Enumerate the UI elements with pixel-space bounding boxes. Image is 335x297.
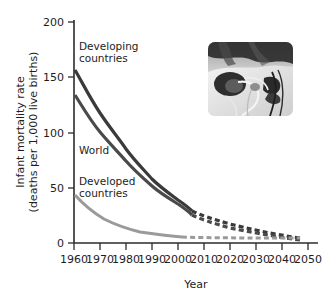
chart-plot-area: 200 150 100 50 0 1960 1970 1980 1990 200… <box>0 0 335 297</box>
x-tick-label-1970: 1970 <box>86 253 114 266</box>
series-label-world-line1: World <box>79 144 109 156</box>
x-tick-label-2050: 2050 <box>294 253 322 266</box>
infant-mortality-chart-figure: 200 150 100 50 0 1960 1970 1980 1990 200… <box>0 0 335 297</box>
y-axis-title-line1: Infant mortality rate <box>14 76 27 188</box>
x-tick-label-2010: 2010 <box>190 253 218 266</box>
series-line-developing-dashed <box>192 211 300 238</box>
x-axis-tick-labels: 1960 1970 1980 1990 2000 2010 2020 2030 … <box>60 253 322 266</box>
x-tick-label-1980: 1980 <box>112 253 140 266</box>
series-label-world: World <box>79 144 109 156</box>
y-axis-ticks <box>68 22 74 243</box>
x-tick-label-1960: 1960 <box>60 253 88 266</box>
y-tick-label-200: 200 <box>43 16 64 29</box>
series-label-developing-line1: Developing <box>79 40 138 52</box>
series-label-developed-line1: Developed <box>79 175 135 187</box>
x-tick-label-2000: 2000 <box>164 253 192 266</box>
series-label-developed-line2: countries <box>79 187 128 199</box>
x-tick-label-1990: 1990 <box>138 253 166 266</box>
x-axis-title: Year <box>183 278 208 291</box>
series-label-developing-line2: countries <box>79 52 128 64</box>
y-tick-label-50: 50 <box>50 182 64 195</box>
x-tick-label-2020: 2020 <box>216 253 244 266</box>
y-axis-title-line2: (deaths per 1,000 live births) <box>27 52 40 213</box>
y-axis-tick-labels: 200 150 100 50 0 <box>43 16 64 250</box>
series-label-developed: Developed countries <box>79 175 135 199</box>
x-axis-ticks <box>74 243 308 250</box>
y-tick-label-100: 100 <box>43 127 64 140</box>
x-tick-label-2030: 2030 <box>242 253 270 266</box>
series-line-developed-dashed <box>182 237 300 238</box>
series-label-developing: Developing countries <box>79 40 138 64</box>
y-tick-label-0: 0 <box>57 237 64 250</box>
y-tick-label-150: 150 <box>43 71 64 84</box>
series-line-developed-solid <box>75 195 182 237</box>
x-tick-label-2040: 2040 <box>268 253 296 266</box>
